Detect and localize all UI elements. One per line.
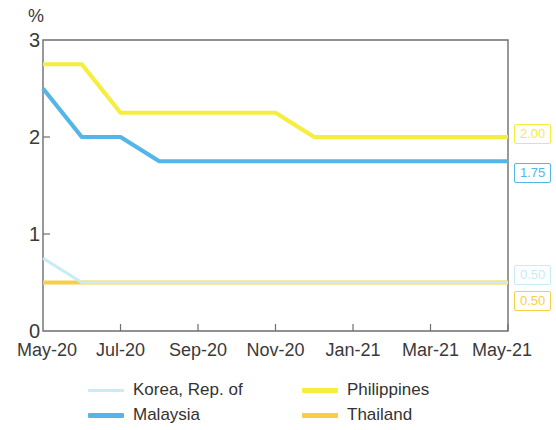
- y-tick-label: 3: [6, 29, 40, 52]
- series-end-label: 0.50: [514, 265, 551, 285]
- legend-color-swatch: [302, 388, 338, 393]
- plot-frame: [43, 40, 508, 331]
- policy-rate-line-chart: % 0123 May-20Jul-20Sep-20Nov-20Jan-21Mar…: [0, 0, 556, 430]
- x-tick-label: May-20: [17, 340, 77, 361]
- series-line: [43, 64, 508, 137]
- series-end-label: 0.50: [514, 291, 551, 311]
- chart-legend: Korea, Rep. ofMalaysiaPhilippinesThailan…: [0, 378, 556, 430]
- x-tick-label: Jul-20: [96, 340, 145, 361]
- legend-color-swatch: [88, 413, 124, 418]
- y-tick-label: 2: [6, 126, 40, 149]
- series-end-label: 2.00: [514, 124, 551, 144]
- legend-item-label: Korea, Rep. of: [133, 380, 243, 400]
- legend-item[interactable]: Korea, Rep. of: [88, 380, 243, 400]
- x-tick-label: Jan-21: [325, 340, 380, 361]
- legend-item-label: Malaysia: [133, 405, 200, 425]
- series-end-label: 1.75: [514, 163, 551, 183]
- series-line: [43, 89, 508, 162]
- y-tick-label: 1: [6, 223, 40, 246]
- series-line: [43, 258, 508, 282]
- legend-item-label: Thailand: [347, 405, 412, 425]
- x-tick-label: Sep-20: [169, 340, 227, 361]
- legend-item[interactable]: Malaysia: [88, 405, 200, 425]
- x-tick-label: Mar-21: [402, 340, 459, 361]
- legend-item-label: Philippines: [347, 380, 429, 400]
- legend-color-swatch: [302, 413, 338, 418]
- plot-area: [0, 0, 556, 430]
- y-axis-tick-labels: 0123: [0, 0, 40, 430]
- x-tick-label: May-21: [472, 340, 532, 361]
- legend-item[interactable]: Philippines: [302, 380, 429, 400]
- legend-item[interactable]: Thailand: [302, 405, 412, 425]
- x-tick-label: Nov-20: [246, 340, 304, 361]
- legend-color-swatch: [88, 389, 124, 392]
